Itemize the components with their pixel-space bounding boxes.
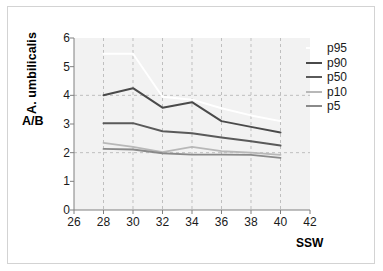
legend-item-p10: p10 [306, 85, 368, 100]
axis-ticks [70, 38, 310, 214]
legend-swatch-icon [306, 47, 322, 49]
legend-item-p50: p50 [306, 70, 368, 85]
legend-label: p90 [327, 57, 347, 69]
legend-swatch-icon [306, 76, 322, 78]
legend-swatch-icon [306, 105, 322, 107]
legend-label: p50 [327, 71, 347, 83]
legend-item-p5: p5 [306, 99, 368, 114]
chart-legend: p95p90p50p10p5 [306, 41, 368, 114]
legend-label: p5 [327, 100, 340, 112]
legend-label: p95 [327, 42, 347, 54]
legend-item-p90: p90 [306, 56, 368, 71]
legend-label: p10 [327, 86, 347, 98]
legend-swatch-icon [306, 91, 322, 93]
chart-figure: A. umbilicalis A/B SSW 0123456 262830323… [0, 0, 383, 271]
legend-swatch-icon [306, 62, 322, 64]
legend-item-p95: p95 [306, 41, 368, 56]
